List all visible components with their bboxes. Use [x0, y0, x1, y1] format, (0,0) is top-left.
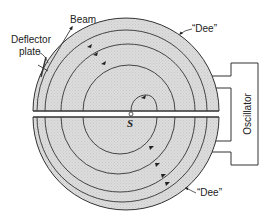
ion-source	[129, 112, 133, 116]
oscillator-label: Oscillator	[242, 92, 253, 134]
cyclotron-diagram: Oscillator S	[0, 0, 272, 219]
beam-label: Beam	[70, 14, 96, 25]
dee-bottom-label: “Dee”	[197, 187, 222, 198]
deflector-label-line1: Deflector	[11, 34, 52, 45]
dee-top-leader	[180, 29, 192, 34]
dee-top-label: “Dee”	[192, 23, 217, 34]
dee-bottom-leader	[186, 188, 196, 193]
deflector-label-line2: plate	[19, 46, 41, 57]
source-label: S	[127, 117, 133, 129]
